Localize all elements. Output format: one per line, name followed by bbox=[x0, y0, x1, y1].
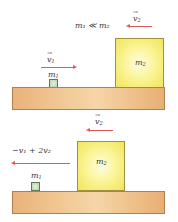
top-v2-label: v2 bbox=[133, 15, 141, 23]
mass-condition-label: m₁ ≪ m₂ bbox=[75, 22, 110, 30]
top-big-block-m2: m2 bbox=[115, 38, 164, 88]
bottom-m2-label: m2 bbox=[96, 158, 107, 166]
top-m1-label: m1 bbox=[48, 71, 59, 79]
bottom-v2-label: v2 bbox=[95, 118, 103, 126]
top-table-surface bbox=[12, 87, 165, 110]
bottom-result-velocity-label: −v₁ + 2v₂ bbox=[12, 147, 51, 155]
top-v2-arrow-icon bbox=[129, 26, 152, 27]
bottom-table-surface bbox=[12, 191, 165, 214]
top-v1-arrow-icon bbox=[41, 67, 74, 68]
bottom-m1-label: m1 bbox=[31, 172, 42, 180]
bottom-v2-arrow-icon bbox=[89, 130, 113, 131]
top-m2-label: m2 bbox=[135, 59, 146, 67]
top-v1-label: v1 bbox=[47, 56, 55, 64]
bottom-result-arrow-icon bbox=[14, 163, 70, 164]
bottom-small-block-m1 bbox=[31, 182, 40, 191]
bottom-big-block-m2: m2 bbox=[77, 141, 125, 191]
